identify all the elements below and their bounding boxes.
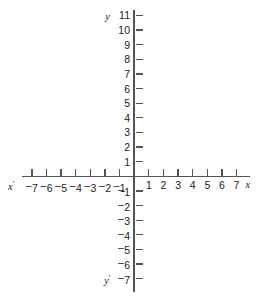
y-axis-tick-label: –3: [0, 213, 130, 227]
y-axis-tick-label: 4: [0, 113, 130, 124]
y-axis-tick: [136, 73, 143, 74]
y-axis-tick-label: –4: [0, 228, 130, 242]
x-axis-tick-label: 3: [175, 180, 181, 191]
y-axis-tick: [136, 263, 143, 264]
y-axis-tick-label: 3: [0, 127, 130, 138]
y-axis-tick: [136, 132, 143, 133]
axis-label-y-negative: y′: [104, 274, 111, 287]
x-axis-tick: [236, 169, 237, 176]
x-axis-tick-label: 7: [234, 180, 240, 191]
y-axis-tick-label: 9: [0, 39, 130, 50]
y-axis-tick: [136, 44, 143, 45]
y-axis-tick: [136, 146, 143, 147]
y-axis-tick-label: 7: [0, 69, 130, 80]
y-axis-tick-label: –5: [0, 242, 130, 256]
x-axis-tick-label: 6: [219, 180, 225, 191]
y-axis-tick: [136, 205, 143, 206]
y-axis-tick: [136, 103, 143, 104]
y-axis-tick: [136, 29, 143, 30]
y-axis-tick: [136, 117, 143, 118]
y-axis-tick-label: 10: [0, 25, 130, 36]
x-axis-line: [22, 176, 250, 178]
y-axis-tick: [136, 88, 143, 89]
y-axis-tick: [136, 278, 143, 279]
y-axis-tick: [136, 220, 143, 221]
x-axis-tick-label: 5: [204, 180, 210, 191]
y-axis-tick: [136, 15, 143, 16]
y-axis-tick: [136, 234, 143, 235]
x-axis-tick: [75, 169, 76, 176]
x-axis-tick: [163, 169, 164, 176]
y-axis-tick-label: –6: [0, 257, 130, 271]
x-axis-tick-label: 2: [161, 180, 167, 191]
axis-label-y-positive: y: [105, 12, 110, 23]
y-axis-tick-label: –2: [0, 199, 130, 213]
x-axis-tick: [148, 169, 149, 176]
axis-label-x-positive: x: [245, 180, 250, 191]
y-axis-line: [133, 10, 135, 292]
y-axis-tick-label: –1: [0, 184, 130, 198]
x-axis-tick: [119, 169, 120, 176]
y-axis-tick-label: 11: [0, 10, 130, 21]
y-axis-tick-label: 1: [0, 156, 130, 167]
y-axis-tick: [136, 249, 143, 250]
x-axis-tick: [104, 169, 105, 176]
y-axis-tick-label: 8: [0, 54, 130, 65]
y-axis-tick-label: 6: [0, 83, 130, 94]
axis-label-x-negative: x′: [8, 180, 15, 193]
x-axis-tick: [90, 169, 91, 176]
x-axis-tick: [221, 169, 222, 176]
x-axis-tick: [207, 169, 208, 176]
x-axis-tick: [46, 169, 47, 176]
y-axis-tick: [136, 190, 143, 191]
y-axis-tick-label: 5: [0, 98, 130, 109]
y-axis-tick-label: 2: [0, 142, 130, 153]
x-axis-tick: [31, 169, 32, 176]
y-axis-tick: [136, 161, 143, 162]
x-axis-tick-label: 4: [190, 180, 196, 191]
x-axis-tick: [60, 169, 61, 176]
x-axis-tick: [177, 169, 178, 176]
coordinate-plane-figure: –7–6–5–4–3–2–112345671110987654321–1–2–3…: [0, 0, 270, 297]
x-axis-tick: [192, 169, 193, 176]
x-axis-tick-label: 1: [146, 180, 152, 191]
y-axis-tick: [136, 59, 143, 60]
